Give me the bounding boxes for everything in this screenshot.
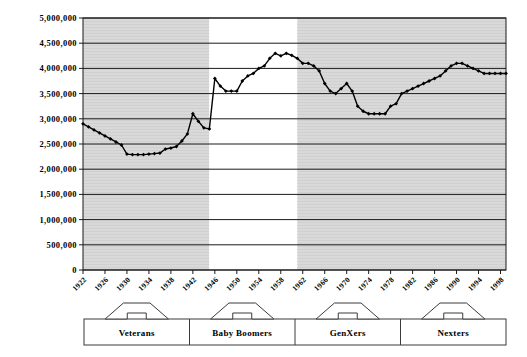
x-axis-tick-label: 1974 [356,275,374,293]
line-chart-svg: 5,000,0004,500,0004,000,0003,500,0003,00… [0,0,527,300]
x-axis-tick-label: 1978 [378,275,396,293]
bracket-label-veterans: Veterans [119,328,155,338]
x-axis-tick-label: 1930 [114,275,132,293]
x-axis-tick-label: 1982 [400,275,418,293]
bracket-pointer [105,303,168,319]
x-axis-tick-label: 1966 [312,275,330,293]
bracket-pointer [316,303,379,319]
bracket-label-baby-boomers: Baby Boomers [212,328,272,338]
x-axis-tick-label: 1954 [246,275,264,293]
x-axis-tick-label: 1950 [224,275,242,293]
y-axis-tick-label: 1,500,000 [39,189,77,199]
chart-plot-area: 5,000,0004,500,0004,000,0003,500,0003,00… [0,0,527,300]
x-axis-tick-label: 1934 [136,275,154,293]
chart-screenshot: 5,000,0004,500,0004,000,0003,500,0003,00… [0,0,527,357]
x-axis-tick-label: 1962 [290,275,308,293]
y-axis-tick-label: 0 [72,265,77,275]
x-axis-tick-label: 1998 [488,275,506,293]
bracket-pointer [422,303,485,319]
x-axis-tick-label: 1946 [202,275,220,293]
y-axis-tick-label: 4,000,000 [39,63,77,73]
y-axis-tick-label: 4,500,000 [39,38,77,48]
x-axis-tick-label: 1942 [180,275,198,293]
y-axis-tick-label: 1,000,000 [39,215,77,225]
bracket-label-genxers: GenXers [330,328,366,338]
y-axis-tick-label: 5,000,000 [39,13,77,23]
x-axis-tick-label: 1994 [466,275,484,293]
x-axis-tick-label: 1958 [268,275,286,293]
y-axis-tick-label: 2,000,000 [39,164,77,174]
x-axis-tick-label: 1926 [92,275,110,293]
bracket-pointer [211,303,274,319]
x-axis-tick-label: 1990 [444,275,462,293]
y-axis-tick-label: 500,000 [47,240,77,250]
generation-brackets: VeteransBaby BoomersGenXersNexters [0,297,527,357]
y-axis-tick-label: 3,000,000 [39,114,77,124]
y-axis-tick-label: 2,500,000 [39,139,77,149]
y-axis-tick-label: 3,500,000 [39,89,77,99]
x-axis-tick-label: 1970 [334,275,352,293]
x-axis-tick-label: 1938 [158,275,176,293]
x-axis-tick-label: 1922 [70,275,88,293]
x-axis-tick-label: 1986 [422,275,440,293]
bracket-label-nexters: Nexters [437,328,469,338]
